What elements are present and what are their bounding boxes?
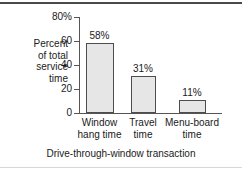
y-axis-tick-label-wrap: 80% (0, 12, 72, 22)
bar-value-label: 58% (80, 30, 120, 41)
y-axis-tick-label: 80% (52, 12, 72, 22)
y-axis-tick-label-wrap: 0 (0, 108, 72, 118)
y-axis-tick-label: 20 (61, 84, 72, 94)
bottom-divider (0, 167, 242, 168)
x-axis-title: Drive-through-window transaction (0, 148, 242, 160)
x-axis-line (79, 113, 222, 114)
y-axis-tick-label: 40 (61, 60, 72, 70)
bar-value-label: 31% (123, 63, 163, 74)
y-axis-tick-label-wrap: 20 (0, 84, 72, 94)
bar (179, 100, 206, 113)
bar-chart-figure: Percentof totalservicetime 020406080% 58… (0, 0, 242, 172)
x-axis-category-label: Menu-boardtime (157, 117, 227, 140)
y-axis-tick-label: 60 (61, 36, 72, 46)
y-axis-tick-label-wrap: 40 (0, 60, 72, 70)
y-axis-title-line: time (4, 73, 68, 85)
x-axis-category-label-line: Menu-board (157, 117, 227, 129)
bar (86, 43, 114, 113)
top-divider (0, 2, 242, 4)
plot-area: 58%31%11% (79, 17, 222, 113)
bar-value-label: 11% (172, 87, 212, 98)
y-axis-tick-label-wrap: 60 (0, 36, 72, 46)
x-axis-category-label-line: time (157, 129, 227, 141)
bar (131, 76, 156, 113)
